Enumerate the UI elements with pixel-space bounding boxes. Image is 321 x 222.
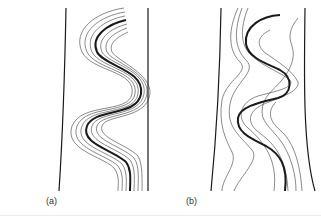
panel-b-streamline xyxy=(262,18,298,191)
panel-a xyxy=(59,8,150,191)
panel-b-right-boundary xyxy=(304,8,315,191)
panel-b-left-boundary xyxy=(211,8,221,191)
panel-b-streamline xyxy=(221,8,242,191)
panel-a-left-boundary xyxy=(59,8,66,191)
panel-a-streamline xyxy=(71,8,132,191)
bottom-divider xyxy=(0,215,321,216)
figure-canvas xyxy=(0,0,321,222)
panel-b xyxy=(211,8,315,191)
panel-b-label: (b) xyxy=(186,196,197,206)
panel-b-streamline xyxy=(250,30,298,191)
panel-a-label: (a) xyxy=(46,196,57,206)
